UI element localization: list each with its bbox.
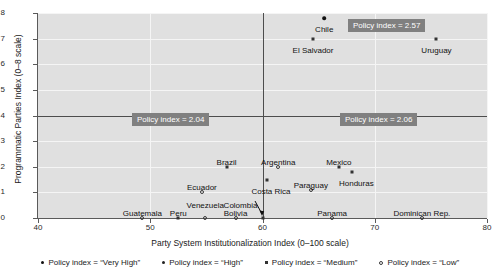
point-label: Costa Rica [251, 187, 290, 196]
legend-marker-veryhigh-icon [41, 261, 45, 265]
y-axis-tick-label: 1 [0, 188, 5, 196]
x-axis-title: Party System Institutionalization Index … [0, 238, 500, 248]
legend-marker-low-icon [379, 261, 383, 265]
y-axis-tick [33, 90, 37, 91]
data-point [203, 216, 207, 220]
legend: Policy index = “Very High”Policy index =… [0, 258, 500, 267]
y-axis-tick [33, 39, 37, 40]
quadrant-annotation-top-left: Policy index = 2.04 [132, 113, 209, 126]
y-axis-tick [33, 116, 37, 117]
point-label: Peru [170, 209, 187, 218]
point-label: Dominican Rep. [393, 209, 450, 218]
point-label: Guatemala [123, 209, 162, 218]
point-label: Panama [317, 209, 347, 218]
point-label: Chile [315, 25, 333, 34]
y-axis-tick-label: 3 [0, 137, 5, 145]
y-axis-tick [33, 192, 37, 193]
y-axis-tick-label: 2 [0, 163, 5, 171]
y-axis-tick [33, 141, 37, 142]
legend-marker-medium-icon [265, 261, 268, 264]
data-point [435, 37, 438, 40]
legend-item-veryhigh: Policy index = “Very High” [41, 258, 140, 267]
legend-item-low: Policy index = “Low” [379, 258, 459, 267]
point-label: Mexico [326, 158, 351, 167]
x-axis-tick-label: 40 [23, 224, 53, 232]
y-axis-tick [33, 13, 37, 14]
y-axis-tick-label: 6 [0, 60, 5, 68]
point-label: Ecuador [187, 183, 217, 192]
point-label: El Salvador [293, 46, 334, 55]
quadrant-annotation-bottom-right: Policy index = 2.06 [340, 113, 417, 126]
point-label: Argentina [261, 158, 295, 167]
legend-label: Policy index = “Low” [387, 258, 459, 267]
y-axis-tick [33, 167, 37, 168]
y-axis-tick-label: 8 [0, 9, 5, 17]
point-label: Venezuela [187, 201, 224, 210]
x-axis-tick-label: 50 [135, 224, 165, 232]
point-label: Bolivia [224, 209, 248, 218]
point-label: Uruguay [421, 46, 451, 55]
y-axis-tick [33, 218, 37, 219]
y-axis-tick-label: 4 [0, 112, 5, 120]
y-axis-line [37, 13, 38, 219]
y-axis-title: Programmatic Parties Index (0–8 scale) [13, 9, 23, 209]
y-axis-tick-label: 5 [0, 86, 5, 94]
scatter-plot-figure: 0123456784050607080Policy index = 2.04Po… [0, 0, 500, 277]
data-point [312, 37, 315, 40]
legend-label: Policy index = “Medium” [272, 258, 358, 267]
point-label: Honduras [339, 179, 374, 188]
point-label: Paraguay [294, 181, 328, 190]
legend-marker-high-icon [162, 261, 165, 264]
x-axis-tick-label: 60 [248, 224, 278, 232]
quadrant-annotation-top-right: Policy index = 2.57 [348, 19, 425, 32]
data-point [322, 16, 326, 20]
x-axis-tick-label: 80 [472, 224, 500, 232]
data-point [265, 178, 268, 181]
legend-label: Policy index = “High” [169, 258, 243, 267]
y-axis-tick [33, 64, 37, 65]
legend-item-medium: Policy index = “Medium” [265, 258, 358, 267]
legend-label: Policy index = “Very High” [48, 258, 140, 267]
data-point [351, 170, 354, 173]
legend-item-high: Policy index = “High” [162, 258, 243, 267]
x-axis-tick-label: 70 [360, 224, 390, 232]
y-axis-tick-label: 7 [0, 35, 5, 43]
y-axis-tick-label: 0 [0, 214, 5, 222]
point-label: Brazil [217, 158, 237, 167]
gridline-vertical [487, 13, 488, 218]
